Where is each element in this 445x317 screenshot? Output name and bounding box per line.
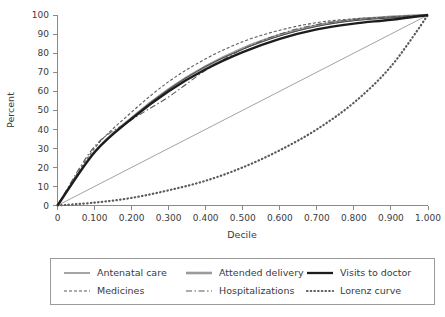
x-tick-label: 1.000: [415, 213, 441, 223]
x-tick-label: 0.700: [304, 213, 330, 223]
x-tick-label: 0.200: [119, 213, 145, 223]
legend-label-medicines: Medicines: [97, 285, 144, 296]
y-tick-label: 30: [38, 144, 50, 154]
y-tick-label: 40: [38, 125, 50, 135]
lorenz-curve-chart: 0102030405060708090100 Percent 00.1000.2…: [0, 0, 445, 317]
legend-label-antenatal-care: Antenatal care: [97, 267, 167, 278]
y-tick-label: 100: [32, 10, 49, 20]
legend-label-lorenz-curve: Lorenz curve: [340, 285, 401, 296]
legend-border: [51, 259, 435, 305]
x-axis: 00.1000.2000.3000.4000.5000.6000.7000.80…: [55, 206, 442, 241]
x-tick-label: 0.500: [230, 213, 256, 223]
x-axis-title: Decile: [227, 229, 257, 240]
y-tick-label: 80: [38, 48, 50, 58]
y-axis-ticks: 0102030405060708090100: [32, 10, 58, 211]
legend-label-attended-delivery: Attended delivery: [219, 267, 304, 278]
chart-figure: 0102030405060708090100 Percent 00.1000.2…: [0, 0, 445, 317]
y-tick-label: 90: [38, 29, 50, 39]
reference-line-of-equality: [58, 15, 429, 206]
y-tick-label: 70: [38, 67, 50, 77]
x-tick-label: 0.800: [341, 213, 367, 223]
legend-label-hospitalizations: Hospitalizations: [219, 285, 294, 296]
x-tick-label: 0: [55, 213, 61, 223]
x-tick-label: 0.900: [378, 213, 404, 223]
x-tick-label: 0.400: [193, 213, 219, 223]
x-tick-label: 0.300: [156, 213, 182, 223]
x-axis-ticks: 00.1000.2000.3000.4000.5000.6000.7000.80…: [55, 206, 442, 224]
y-tick-label: 50: [38, 105, 50, 115]
x-tick-label: 0.600: [267, 213, 293, 223]
y-tick-label: 10: [38, 182, 50, 192]
y-tick-label: 60: [38, 86, 50, 96]
legend-label-visits-to-doctor: Visits to doctor: [340, 267, 411, 278]
y-tick-label: 20: [38, 163, 50, 173]
y-axis-title: Percent: [5, 92, 16, 128]
x-tick-label: 0.100: [82, 213, 108, 223]
y-axis: 0102030405060708090100 Percent: [5, 10, 58, 211]
legend: Antenatal careAttended deliveryVisits to…: [51, 259, 435, 305]
plot-series-group: [58, 15, 429, 206]
legend-items: Antenatal careAttended deliveryVisits to…: [64, 267, 411, 296]
y-tick-label: 0: [43, 201, 49, 211]
